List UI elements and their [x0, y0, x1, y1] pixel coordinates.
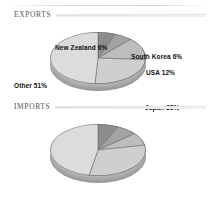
imports-pie: [50, 124, 146, 182]
exports-label-new-zealand: New Zealand 6%: [55, 44, 107, 51]
imports-pie-face: [50, 124, 146, 176]
exports-label-south-korea: South Korea 6%: [131, 53, 182, 60]
exports-slice-japan: [95, 58, 146, 84]
exports-title: EXPORTS: [14, 10, 51, 19]
imports-title: IMPORTS: [14, 102, 50, 111]
exports-section-header: EXPORTS: [0, 9, 212, 20]
section-imports: IMPORTS: [0, 101, 212, 193]
infographic-page: EXPORTS: [0, 0, 212, 204]
exports-pie: [50, 32, 146, 90]
exports-header-rule: [56, 14, 206, 17]
exports-label-other: Other 51%: [14, 82, 47, 89]
top-divider: [6, 5, 206, 6]
section-exports: EXPORTS: [0, 9, 212, 101]
imports-header-rule: [55, 106, 206, 109]
imports-section-header: IMPORTS: [0, 101, 212, 112]
exports-chart: New Zealand 6% South Korea 6% USA 12% Ja…: [0, 20, 212, 101]
exports-label-usa: USA 12%: [146, 69, 175, 76]
imports-chart: UK 7% Germany* 7% Japan 8% USA 25% Other…: [0, 112, 212, 193]
